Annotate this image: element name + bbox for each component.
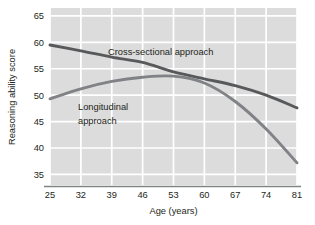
reasoning-ability-line-chart: 253239465360677481 35404550556065 Cross-… [0, 0, 315, 225]
x-tick-labels: 253239465360677481 [45, 190, 302, 200]
chart-figure: 253239465360677481 35404550556065 Cross-… [0, 0, 315, 225]
y-axis-title: Reasoning ability score [7, 49, 17, 145]
x-tick-label: 39 [107, 190, 117, 200]
x-tick-label: 81 [292, 190, 302, 200]
series-annotation: Cross-sectional approach [108, 47, 213, 57]
series-annotation: approach [78, 116, 117, 126]
y-tick-labels: 35404550556065 [34, 11, 44, 180]
y-tick-label: 45 [34, 117, 44, 127]
y-tick-label: 50 [34, 91, 44, 101]
y-tick-label: 65 [34, 11, 44, 21]
series-annotation: Longitudinal [78, 102, 128, 112]
x-tick-label: 60 [199, 190, 209, 200]
y-tick-label: 55 [34, 64, 44, 74]
x-axis-title: Age (years) [149, 206, 197, 216]
x-tick-label: 74 [261, 190, 271, 200]
y-tick-label: 35 [34, 170, 44, 180]
x-tick-label: 25 [45, 190, 55, 200]
x-tick-label: 46 [137, 190, 147, 200]
y-tick-label: 60 [34, 38, 44, 48]
x-tick-label: 67 [230, 190, 240, 200]
y-tick-label: 40 [34, 143, 44, 153]
x-tick-label: 32 [76, 190, 86, 200]
x-tick-label: 53 [168, 190, 178, 200]
